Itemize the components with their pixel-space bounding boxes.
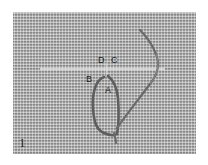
point-label-b: B (86, 75, 92, 84)
point-label-d: D (98, 56, 105, 65)
step-number: 1 (19, 136, 26, 149)
needle-thread-short (106, 63, 107, 76)
stitch-illustration (0, 0, 208, 165)
point-label-a: A (105, 86, 111, 95)
point-label-c: C (111, 56, 118, 65)
thread-long (117, 30, 158, 128)
